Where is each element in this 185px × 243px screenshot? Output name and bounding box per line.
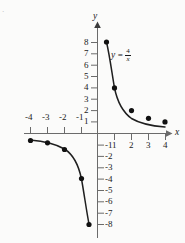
ytick-label-2: 2 xyxy=(84,106,89,115)
x-axis xyxy=(24,130,173,137)
ytick-label-neg-4: -4 xyxy=(105,175,113,184)
ytick-label-neg-5: -5 xyxy=(105,186,113,195)
xtick-label-neg-1: -1 xyxy=(76,113,84,122)
ytick-label-neg-3: -3 xyxy=(105,163,113,172)
equation-annotation: y = 4 x xyxy=(111,48,131,64)
ytick-label-1: 1 xyxy=(84,117,89,126)
xtick-label-neg-2: -2 xyxy=(59,113,67,122)
ytick-label-4: 4 xyxy=(84,83,89,92)
ytick-label-7: 7 xyxy=(84,49,89,58)
ytick-label-6: 6 xyxy=(84,61,89,70)
x-axis-label: x xyxy=(175,128,179,138)
ytick-label-neg-1: -1 xyxy=(105,141,113,150)
ytick-label-5: 5 xyxy=(84,72,89,81)
equation-denominator: x xyxy=(125,55,130,63)
equation-numerator: 4 xyxy=(125,48,131,55)
ytick-label-neg-8: -8 xyxy=(105,220,113,229)
ytick-label-3: 3 xyxy=(84,95,89,104)
figure-canvas: · xyxy=(0,0,185,243)
y-axis-ticks-positive xyxy=(91,43,98,122)
xtick-label-1: 1 xyxy=(112,141,117,150)
y-axis-label: y xyxy=(93,12,97,22)
ytick-label-neg-7: -7 xyxy=(105,209,113,218)
y-axis-ticks-negative xyxy=(98,145,105,224)
ytick-label-8: 8 xyxy=(84,38,89,47)
xtick-label-4: 4 xyxy=(163,141,168,150)
curve-branch-negative xyxy=(30,140,89,224)
xtick-label-2: 2 xyxy=(129,141,134,150)
ytick-label-neg-6: -6 xyxy=(105,197,113,206)
equation-equals: = xyxy=(118,51,123,60)
xtick-label-neg-3: -3 xyxy=(42,113,50,122)
ytick-label-neg-2: -2 xyxy=(105,152,113,161)
equation-lhs: y xyxy=(111,51,115,61)
xtick-label-3: 3 xyxy=(146,141,151,150)
xtick-label-neg-4: -4 xyxy=(25,113,33,122)
equation-fraction: 4 x xyxy=(125,48,131,64)
